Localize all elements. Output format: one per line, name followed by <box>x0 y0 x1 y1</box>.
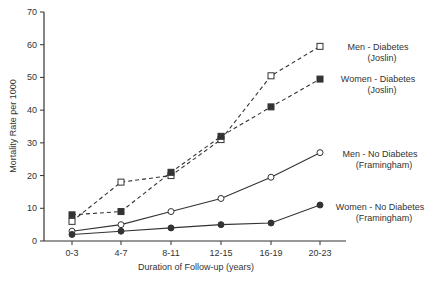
series-label: Women - No Diabetes <box>336 202 425 212</box>
filled-circle-marker <box>218 222 224 228</box>
open-square-marker <box>118 179 124 185</box>
y-tick-label: 60 <box>27 40 37 50</box>
x-tick-label: 16-19 <box>259 248 282 258</box>
filled-square-marker <box>69 212 75 218</box>
open-circle-marker <box>268 174 274 180</box>
y-axis: 010203040506070 <box>27 7 44 246</box>
open-square-marker <box>268 73 274 79</box>
line-chart: 010203040506070 0-34-78-1112-1516-1920-2… <box>0 0 432 285</box>
series-line-3 <box>72 205 320 234</box>
series-labels: Men - Diabetes(Joslin)Women - Diabetes(J… <box>336 42 425 223</box>
open-circle-marker <box>317 150 323 156</box>
filled-square-marker <box>317 76 323 82</box>
x-axis: 0-34-78-1112-1516-1920-23 <box>44 241 346 258</box>
y-tick-label: 50 <box>27 72 37 82</box>
filled-circle-marker <box>268 220 274 226</box>
series-label: Women - Diabetes <box>341 74 416 84</box>
filled-square-marker <box>218 133 224 139</box>
series-line-1 <box>72 79 320 215</box>
x-tick-label: 4-7 <box>114 248 127 258</box>
x-tick-label: 20-23 <box>308 248 331 258</box>
x-tick-label: 12-15 <box>209 248 232 258</box>
x-tick-label: 0-3 <box>65 248 78 258</box>
x-tick-label: 8-11 <box>162 248 179 258</box>
series-line-2 <box>72 153 320 232</box>
y-tick-label: 10 <box>27 203 37 213</box>
series-label-source: (Framingham) <box>356 160 413 170</box>
y-tick-label: 0 <box>32 236 37 246</box>
x-axis-label: Duration of Follow-up (years) <box>138 262 254 272</box>
series-label-source: (Framingham) <box>356 213 413 223</box>
y-tick-label: 40 <box>27 105 37 115</box>
series-label: Men - No Diabetes <box>342 149 418 159</box>
series-markers <box>69 43 323 237</box>
y-tick-label: 70 <box>27 7 37 17</box>
series-line-0 <box>72 46 320 221</box>
y-tick-label: 30 <box>27 138 37 148</box>
series-label-source: (Joslin) <box>367 85 396 95</box>
open-circle-marker <box>218 195 224 201</box>
y-axis-label: Mortality Rate per 1000 <box>8 79 18 173</box>
open-circle-marker <box>118 222 124 228</box>
y-tick-label: 20 <box>27 171 37 181</box>
open-square-marker <box>317 43 323 49</box>
series-lines <box>72 46 320 234</box>
open-square-marker <box>69 218 75 224</box>
filled-square-marker <box>118 209 124 215</box>
series-label-source: (Joslin) <box>367 53 396 63</box>
filled-circle-marker <box>317 202 323 208</box>
filled-square-marker <box>268 104 274 110</box>
filled-circle-marker <box>168 225 174 231</box>
open-circle-marker <box>168 209 174 215</box>
filled-circle-marker <box>118 228 124 234</box>
filled-circle-marker <box>69 231 75 237</box>
filled-square-marker <box>168 169 174 175</box>
series-label: Men - Diabetes <box>347 42 409 52</box>
